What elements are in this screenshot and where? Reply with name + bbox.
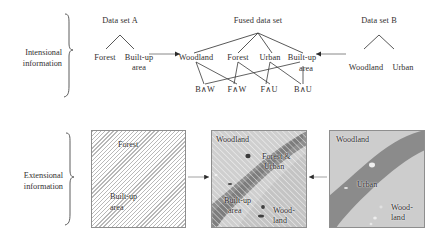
panel-fused-label-builtup-area: area (228, 206, 241, 215)
fused-node-woodland: Woodland (179, 53, 214, 63)
brace-label-extensional: Extensional information (0, 171, 63, 192)
dataset-a-title: Data set A (102, 16, 138, 26)
panel-fused-label-urban: Urban (264, 162, 284, 171)
dataset-a-triangle (106, 35, 134, 49)
panel-b-label-wood: Wood- (391, 203, 413, 212)
brace-label-extensional-line1: Extensional (24, 171, 63, 180)
brace-label-intensional: Intensional information (0, 48, 62, 69)
panel-fused-label-forest-and: Forest & (262, 152, 291, 161)
dataset-a-leaf-forest: Forest (94, 53, 115, 63)
fused-link-w-fw (196, 62, 237, 84)
fused-link-u-fu (266, 62, 270, 84)
dataset-a-leaf-builtup-area: area (132, 63, 146, 73)
fused-node-builtup: Built-up (288, 53, 316, 63)
panel-a-label-forest: Forest (118, 140, 138, 149)
panel-fused-label-land: land (273, 216, 287, 225)
figure-root: Intensional information Extensional info… (0, 0, 444, 240)
panel-fused-label-wood: Wood- (273, 206, 295, 215)
fused-node-urban: Urban (259, 53, 280, 63)
fused-intersection-bw: B∧W (195, 85, 215, 95)
dataset-a-leaf-builtup: Built-up (125, 53, 153, 63)
brace-intensional (64, 14, 73, 97)
fused-node-builtup-area: area (299, 64, 313, 74)
extensional-panel-dataset-b (329, 130, 425, 228)
panel-fused-label-woodland: Woodland (216, 135, 249, 144)
panel-b-label-land: land (391, 213, 405, 222)
brace-label-intensional-line2: information (23, 59, 62, 68)
fused-title: Fused data set (234, 16, 282, 26)
fused-intersection-fw: F∧W (228, 85, 247, 95)
panel-a-label-builtup: Built-up (110, 192, 137, 201)
fused-node-forest: Forest (227, 53, 248, 63)
fused-intersection-fu: F∧U (261, 85, 278, 95)
fused-intersection-bu: B∧U (294, 85, 312, 95)
dataset-b-leaf-urban: Urban (392, 63, 413, 73)
panel-a-label-builtup-area: area (110, 203, 123, 212)
dataset-b-leaf-woodland: Woodland (349, 63, 384, 73)
brace-label-extensional-line2: information (24, 182, 63, 191)
panel-b-label-urban: Urban (357, 180, 377, 189)
brace-label-intensional-line1: Intensional (25, 48, 62, 57)
brace-extensional (65, 133, 74, 225)
fused-link-f-fw (234, 62, 238, 84)
dataset-b-title: Data set B (361, 16, 397, 26)
extensional-panel-dataset-a (91, 130, 186, 228)
dataset-b-triangle (364, 35, 394, 49)
panel-fused-label-builtup: Built-up (224, 196, 251, 205)
panel-b-label-woodland: Woodland (336, 135, 369, 144)
